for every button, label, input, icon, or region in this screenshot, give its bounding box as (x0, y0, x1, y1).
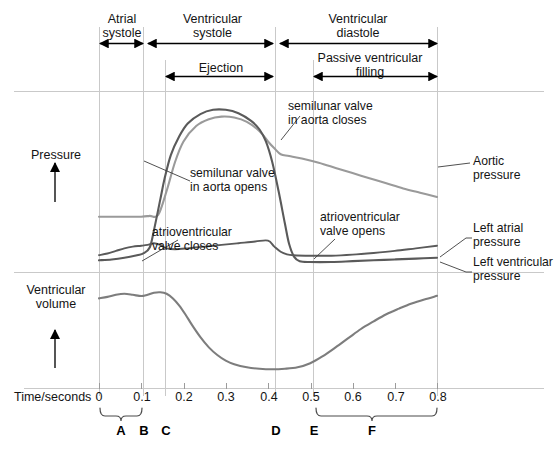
series-label-aortic: Aortic pressure (473, 155, 520, 182)
annotation-semilunar-opens: semilunar valve in aorta opens (190, 167, 275, 194)
marker-e: E (303, 424, 325, 439)
x-tick-0.6: 0.6 (336, 390, 370, 404)
x-tick-0.4: 0.4 (252, 390, 286, 404)
brace-f (316, 408, 437, 421)
phase-label-ventricular-systole: Ventricular systole (160, 12, 265, 40)
marker-f: F (361, 424, 383, 439)
x-tick-0.8: 0.8 (421, 390, 455, 404)
marker-d: D (265, 424, 287, 439)
phase-label-passive-filling: Passive ventricular filling (300, 51, 440, 79)
marker-b: B (133, 424, 155, 439)
cardiac-cycle-figure: Atrial systole Ventricular systole Ventr… (0, 0, 558, 449)
phase-label-ventricular-diastole: Ventricular diastole (303, 12, 413, 40)
annotation-av-opens: atrioventricular valve opens (320, 211, 400, 238)
phase-label-ejection: Ejection (180, 61, 262, 75)
annotation-av-closes: atrioventricular valve closes (152, 226, 232, 253)
x-tick-0.1: 0.1 (125, 390, 159, 404)
axis-label-volume: Ventricular volume (14, 283, 98, 311)
x-tick-0.2: 0.2 (167, 390, 201, 404)
x-tick-0.3: 0.3 (209, 390, 243, 404)
marker-a: A (110, 424, 132, 439)
marker-c: C (155, 424, 177, 439)
x-tick-0.5: 0.5 (294, 390, 328, 404)
series-label-left-ventricular: Left ventricular pressure (473, 256, 553, 283)
x-tick-0: 0 (82, 390, 116, 404)
x-tick-0.7: 0.7 (379, 390, 413, 404)
axis-label-time: Time/seconds (14, 390, 91, 404)
phase-label-atrial-systole: Atrial systole (84, 12, 160, 40)
series-label-left-atrial: Left atrial pressure (473, 222, 523, 249)
brace-a (100, 408, 142, 421)
axis-label-pressure: Pressure (22, 148, 90, 162)
annotation-semilunar-closes: semilunar valve in aorta closes (288, 100, 373, 127)
